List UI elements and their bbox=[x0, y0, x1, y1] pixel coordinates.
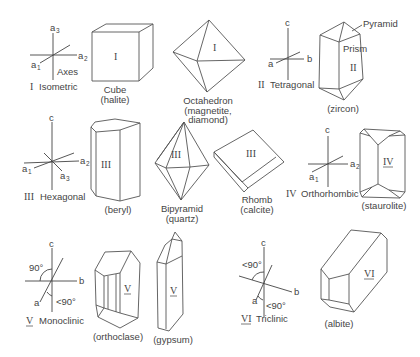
svg-text:(gypsum): (gypsum) bbox=[153, 334, 193, 345]
quartz-bipyramid-crystal: III bbox=[155, 122, 209, 200]
svg-text:c: c bbox=[325, 124, 330, 135]
svg-text:2: 2 bbox=[86, 160, 90, 167]
svg-text:(quartz): (quartz) bbox=[166, 213, 199, 224]
hexagonal-label: Hexagonal bbox=[40, 191, 85, 202]
triclinic-numeral: VI bbox=[241, 313, 252, 324]
albite-crystal: VI bbox=[321, 230, 387, 312]
svg-text:c: c bbox=[49, 238, 54, 249]
svg-text:(albite): (albite) bbox=[324, 318, 353, 329]
svg-text:1: 1 bbox=[28, 168, 32, 175]
svg-text:VI: VI bbox=[364, 268, 375, 279]
isometric-numeral: I bbox=[30, 81, 33, 92]
svg-text:1: 1 bbox=[37, 64, 41, 71]
svg-text:3: 3 bbox=[66, 175, 70, 182]
svg-text:b: b bbox=[79, 275, 84, 286]
monoclinic-label: Monoclinic bbox=[39, 315, 84, 326]
beryl-crystal: III bbox=[91, 119, 140, 201]
svg-text:(calcite): (calcite) bbox=[240, 204, 273, 215]
svg-text:90°: 90° bbox=[29, 262, 44, 273]
svg-text:a: a bbox=[34, 297, 40, 308]
gypsum-crystal: V bbox=[157, 232, 183, 331]
hexagonal-numeral: III bbox=[24, 191, 34, 202]
svg-text:diamond): diamond) bbox=[188, 114, 228, 125]
svg-text:(beryl): (beryl) bbox=[105, 204, 132, 215]
svg-text:2: 2 bbox=[356, 163, 360, 170]
svg-text:a: a bbox=[252, 295, 258, 306]
svg-text:(halite): (halite) bbox=[100, 94, 129, 105]
tetragonal-label: Tetragonal bbox=[270, 79, 314, 90]
svg-text:c: c bbox=[49, 112, 54, 123]
svg-text:(zircon): (zircon) bbox=[327, 103, 359, 114]
isometric-label: Isometric bbox=[39, 81, 78, 92]
tetragonal-numeral: II bbox=[258, 79, 265, 90]
orthorhombic-label: Orthorhombic bbox=[301, 188, 359, 199]
svg-text:III: III bbox=[246, 148, 256, 159]
hexagonal-axes: c a 2 a 1 a 3 bbox=[22, 112, 90, 190]
svg-text:2: 2 bbox=[84, 55, 88, 62]
prism-label: Prism bbox=[343, 43, 367, 54]
svg-text:c: c bbox=[285, 17, 290, 28]
zircon-crystal: Pyramid Prism II bbox=[319, 18, 398, 100]
staurolite-crystal: IV bbox=[360, 129, 405, 198]
triclinic-axes: c b a <90° <90° bbox=[239, 237, 299, 317]
svg-text:<90°: <90° bbox=[56, 296, 76, 307]
tetragonal-axes: c b a bbox=[268, 17, 312, 80]
monoclinic-numeral: V bbox=[26, 315, 34, 326]
triclinic-label: Triclinic bbox=[256, 313, 288, 324]
svg-text:II: II bbox=[350, 62, 357, 73]
svg-text:V: V bbox=[170, 285, 178, 296]
crystal-systems-diagram: a 3 a 2 a 1 Axes I Isometric I Cube (hal… bbox=[0, 0, 420, 357]
svg-text:a: a bbox=[268, 58, 274, 69]
calcite-rhomb-crystal: III bbox=[214, 130, 284, 192]
cube-crystal: I bbox=[92, 24, 153, 81]
octahedron-crystal: I bbox=[173, 20, 245, 92]
svg-text:b: b bbox=[307, 53, 312, 64]
svg-text:IV: IV bbox=[383, 156, 394, 167]
svg-text:III: III bbox=[101, 159, 111, 170]
svg-text:3: 3 bbox=[56, 27, 60, 34]
svg-text:III: III bbox=[171, 149, 181, 160]
svg-text:1: 1 bbox=[315, 176, 319, 183]
svg-text:<90°: <90° bbox=[242, 259, 262, 270]
orthorhombic-numeral: IV bbox=[286, 188, 297, 199]
monoclinic-axes: c b a 90° <90° bbox=[25, 238, 84, 312]
isometric-axes: a 3 a 2 a 1 Axes bbox=[30, 22, 88, 80]
pyramid-label: Pyramid bbox=[363, 18, 398, 29]
svg-text:<90°: <90° bbox=[266, 300, 286, 311]
svg-text:(staurolite): (staurolite) bbox=[362, 200, 407, 211]
svg-text:c: c bbox=[261, 237, 266, 248]
orthoclase-crystal: V bbox=[95, 251, 140, 328]
axes-label: Axes bbox=[57, 66, 78, 77]
svg-text:(orthoclase): (orthoclase) bbox=[93, 331, 143, 342]
svg-text:I: I bbox=[114, 51, 117, 62]
svg-text:I: I bbox=[213, 42, 216, 53]
svg-text:V: V bbox=[124, 283, 132, 294]
orthorhombic-axes: c a 2 a 1 bbox=[308, 124, 360, 187]
svg-text:b: b bbox=[294, 286, 299, 297]
